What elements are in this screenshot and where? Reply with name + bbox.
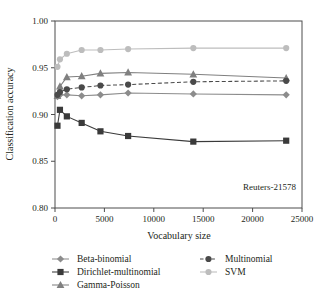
legend-item-svm[interactable]: SVM [200,267,246,277]
y-axis-ticks: 0.800.850.900.951.00 [32,16,55,213]
data-point-marker [125,133,131,139]
data-point-marker [79,47,85,53]
legend-label: Gamma-Poisson [77,280,140,290]
data-point-marker [283,91,290,98]
data-point-marker [125,89,132,96]
legend-label: Dirichlet-multinomial [77,267,161,277]
chart-legend: Beta-binomialDirichlet-multinomialGamma-… [52,254,273,290]
x-tick-label: 20000 [241,214,264,224]
data-point-marker [125,81,131,87]
data-point-marker [190,139,196,145]
x-axis-title: Vocabulary size [147,230,211,241]
series-line [57,48,286,67]
x-axis-ticks: 0500010000150002000025000 [53,208,314,224]
y-tick-label: 0.80 [32,203,48,213]
y-tick-label: 1.00 [32,16,48,26]
legend-label: Multinomial [225,254,273,264]
data-point-marker [190,45,196,51]
data-point-marker [57,255,64,262]
x-tick-label: 15000 [192,214,215,224]
data-point-marker [78,92,85,99]
data-point-marker [79,120,85,126]
plot-area-border [55,21,302,208]
data-point-marker [124,68,132,75]
series-dirichlet-multinomial [54,107,289,145]
data-point-marker [79,84,85,90]
y-tick-label: 0.95 [32,63,48,73]
data-point-marker [97,82,103,88]
data-point-marker [97,47,103,53]
data-point-marker [57,107,63,113]
data-point-marker [283,78,289,84]
y-tick-label: 0.90 [32,110,48,120]
data-point-marker [97,128,103,134]
data-point-marker [205,256,211,262]
y-axis-title: Classification accuracy [4,67,15,160]
chart-container: 0.800.850.900.951.00 0500010000150002000… [0,0,327,302]
data-point-marker [283,138,289,144]
y-tick-label: 0.85 [32,156,48,166]
plot-frame [55,21,302,208]
data-point-marker [64,51,70,57]
x-tick-label: 5000 [95,214,114,224]
data-point-marker [57,89,63,95]
x-tick-label: 25000 [291,214,314,224]
legend-label: SVM [225,267,246,277]
series-line [57,72,286,95]
legend-item-multinomial[interactable]: Multinomial [200,254,273,264]
series-line [57,93,286,97]
data-point-marker [125,46,131,52]
classification-accuracy-line-chart: 0.800.850.900.951.00 0500010000150002000… [0,0,327,302]
legend-item-dirichlet-multinomial[interactable]: Dirichlet-multinomial [52,267,161,277]
data-point-marker [283,45,289,51]
data-point-marker [57,269,63,275]
series-beta-binomial [54,89,290,100]
series-line [57,110,286,142]
legend-label: Beta-binomial [77,254,132,264]
data-point-marker [54,123,60,129]
legend-item-beta-binomial[interactable]: Beta-binomial [52,254,132,264]
legend-item-gamma-poisson[interactable]: Gamma-Poisson [52,280,140,290]
data-point-marker [54,64,60,70]
series-line [57,81,286,95]
series-svm [54,45,289,70]
data-point-marker [190,90,197,97]
data-point-marker [190,79,196,85]
x-tick-label: 0 [53,214,58,224]
data-point-marker [97,91,104,98]
data-point-marker [57,56,63,62]
data-point-marker [64,113,70,119]
data-point-marker [205,269,211,275]
data-series [54,45,291,145]
data-point-marker [64,86,70,92]
dataset-annotation: Reuters-21578 [243,182,296,192]
x-tick-label: 10000 [143,214,166,224]
